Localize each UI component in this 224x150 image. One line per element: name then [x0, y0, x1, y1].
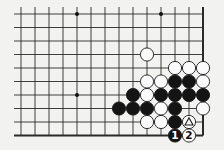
- white-stone: [140, 88, 153, 101]
- black-stone: [126, 102, 139, 115]
- black-stone: [168, 75, 181, 88]
- white-stone: [140, 115, 153, 128]
- black-stone: [168, 102, 181, 115]
- black-stone: [168, 115, 181, 128]
- white-stone: [154, 115, 167, 128]
- black-stone: [154, 88, 167, 101]
- black-stone: [168, 88, 181, 101]
- white-stone: [154, 102, 167, 115]
- move-number-label: 1: [171, 129, 178, 141]
- white-stone: [196, 61, 209, 74]
- white-stone: [182, 115, 195, 128]
- black-stone: [126, 88, 139, 101]
- star-point: [159, 12, 163, 16]
- black-stone: [140, 102, 153, 115]
- white-stone: 2: [182, 129, 195, 142]
- white-stone: [196, 102, 209, 115]
- black-stone: [182, 88, 195, 101]
- black-stone: [112, 102, 125, 115]
- black-stone: [182, 75, 195, 88]
- white-stone: [196, 75, 209, 88]
- white-stone: [168, 61, 181, 74]
- go-board-diagram: 12: [0, 0, 224, 150]
- black-stone: [196, 88, 209, 101]
- white-stone: [140, 48, 153, 61]
- move-number-label: 2: [185, 129, 192, 141]
- white-stone: [140, 75, 153, 88]
- white-stone: [154, 75, 167, 88]
- star-point: [75, 93, 79, 97]
- star-point: [75, 12, 79, 16]
- black-stone: 1: [168, 129, 181, 142]
- white-stone: [182, 61, 195, 74]
